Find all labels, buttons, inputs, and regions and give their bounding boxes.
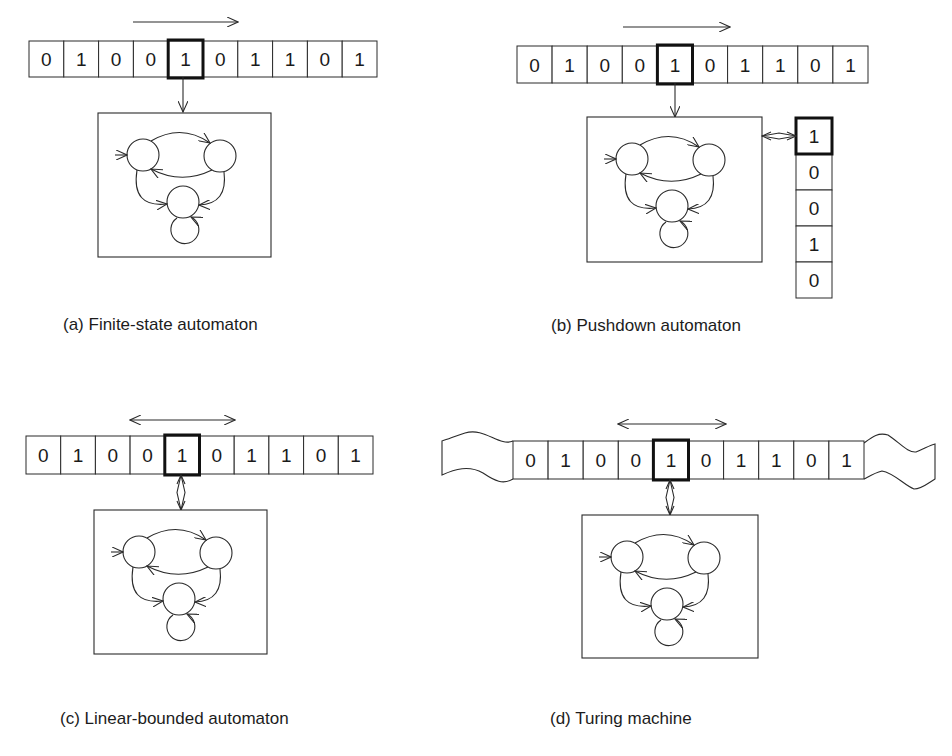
stack-cell-symbol: 1 bbox=[809, 126, 820, 147]
left-state bbox=[616, 143, 648, 175]
tape-cell-symbol: 1 bbox=[564, 55, 575, 76]
bottom-state bbox=[651, 588, 683, 620]
left-state bbox=[127, 139, 159, 171]
caption-turing-machine: (d) Turing machine bbox=[550, 709, 692, 729]
read-write-arrowheads bbox=[666, 480, 674, 515]
tape-cell-symbol: 1 bbox=[350, 445, 361, 466]
tape-cell-symbol: 0 bbox=[111, 49, 122, 70]
tape-cell-symbol: 1 bbox=[666, 450, 677, 471]
tape-cell-symbol: 0 bbox=[212, 445, 223, 466]
tape-cell-symbol: 1 bbox=[560, 450, 571, 471]
finite-control-box bbox=[94, 510, 267, 654]
tape-cell-symbol: 0 bbox=[705, 55, 716, 76]
tape-cell-symbol: 0 bbox=[215, 49, 226, 70]
tape-cell-symbol: 0 bbox=[806, 450, 817, 471]
tape-cell-symbol: 1 bbox=[250, 49, 261, 70]
tape-cell-symbol: 1 bbox=[841, 450, 852, 471]
tape-cell-symbol: 1 bbox=[354, 49, 365, 70]
tape-infinite-left-end bbox=[442, 432, 513, 482]
tape-cell-symbol: 0 bbox=[107, 445, 118, 466]
tape-cell-symbol: 0 bbox=[599, 55, 610, 76]
tape-cell-symbol: 0 bbox=[142, 445, 153, 466]
panel-d: 0100101101 bbox=[442, 424, 935, 658]
tape-cell-symbol: 1 bbox=[281, 445, 292, 466]
right-state bbox=[204, 140, 236, 172]
tape-cell-symbol: 0 bbox=[320, 49, 331, 70]
caption-linear-bounded-automaton: (c) Linear-bounded automaton bbox=[60, 709, 289, 729]
tape-cell-symbol: 1 bbox=[76, 49, 87, 70]
left-state bbox=[611, 541, 643, 573]
stack-cell-symbol: 0 bbox=[809, 162, 820, 183]
tape-cell-symbol: 1 bbox=[180, 49, 191, 70]
tape-cell-symbol: 0 bbox=[595, 450, 606, 471]
caption-finite-state-automaton: (a) Finite-state automaton bbox=[63, 315, 258, 335]
tape-cell-symbol: 0 bbox=[529, 55, 540, 76]
tape-cell-symbol: 1 bbox=[736, 450, 747, 471]
bottom-state bbox=[163, 583, 195, 615]
read-write-arrowheads bbox=[177, 475, 185, 510]
right-state bbox=[693, 144, 725, 176]
tape-cell-symbol: 1 bbox=[740, 55, 751, 76]
tape-cell-symbol: 0 bbox=[701, 450, 712, 471]
left-state bbox=[123, 536, 155, 568]
tape-cell-symbol: 1 bbox=[670, 55, 681, 76]
panel-c: 0100101101 bbox=[26, 420, 373, 654]
tape-cell-symbol: 0 bbox=[525, 450, 536, 471]
caption-pushdown-automaton: (b) Pushdown automaton bbox=[551, 316, 741, 336]
tape-cell-symbol: 1 bbox=[771, 450, 782, 471]
tape-cell-symbol: 1 bbox=[285, 49, 296, 70]
tape-cell-symbol: 0 bbox=[631, 450, 642, 471]
tape-cell-symbol: 1 bbox=[73, 445, 84, 466]
bottom-state bbox=[656, 190, 688, 222]
tape-cell-symbol: 1 bbox=[246, 445, 257, 466]
tape-cell-symbol: 0 bbox=[146, 49, 157, 70]
finite-control-box bbox=[98, 113, 271, 257]
tape-cell-symbol: 0 bbox=[316, 445, 327, 466]
right-state bbox=[688, 542, 720, 574]
tape-cell-symbol: 1 bbox=[845, 55, 856, 76]
tape-cell-symbol: 0 bbox=[41, 49, 52, 70]
stack-cell-symbol: 1 bbox=[809, 234, 820, 255]
stack-cell-symbol: 0 bbox=[809, 270, 820, 291]
tape-cell-symbol: 0 bbox=[635, 55, 646, 76]
bottom-state bbox=[167, 186, 199, 218]
tape-cell-symbol: 1 bbox=[177, 445, 188, 466]
automata-hierarchy-figure: 0100101101010010110110010010010110101001… bbox=[0, 0, 952, 756]
tape-cell-symbol: 1 bbox=[775, 55, 786, 76]
finite-control-box bbox=[582, 515, 758, 658]
tape-cell-symbol: 0 bbox=[38, 445, 49, 466]
panel-b: 010010110110010 bbox=[517, 27, 868, 298]
finite-control-box bbox=[587, 117, 762, 262]
panel-a: 0100101101 bbox=[29, 22, 377, 257]
tape-infinite-right-end bbox=[864, 434, 935, 489]
tape-cell-symbol: 0 bbox=[810, 55, 821, 76]
stack-cell-symbol: 0 bbox=[809, 198, 820, 219]
right-state bbox=[200, 537, 232, 569]
